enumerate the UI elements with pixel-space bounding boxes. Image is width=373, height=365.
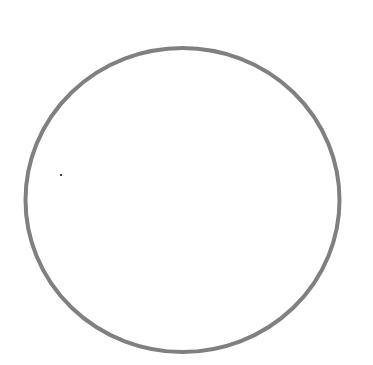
circle-outline — [26, 48, 340, 352]
dot-marker — [60, 174, 62, 176]
diagram-canvas — [0, 0, 373, 365]
